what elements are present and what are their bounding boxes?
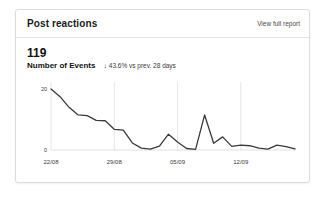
card-header: Post reactions View full report	[16, 10, 309, 38]
delta-text: 43.6% vs prev. 28 days	[109, 62, 176, 69]
chart-x-tick-label: 05/09	[170, 159, 186, 165]
events-line-chart: 020 22/0829/0805/0912/09	[27, 80, 299, 175]
metric-value: 119	[27, 46, 299, 60]
chart-x-tick-label: 22/08	[43, 159, 59, 165]
metric-label: Number of Events	[27, 61, 95, 70]
card-body: 119 Number of Events ↓ 43.6% vs prev. 28…	[16, 38, 309, 183]
metric-row: Number of Events ↓ 43.6% vs prev. 28 day…	[27, 61, 299, 70]
chart-y-axis-ticks: 020	[41, 86, 47, 153]
status-badge: ↓ 43.6% vs prev. 28 days	[103, 62, 175, 69]
chart-canvas: 020 22/0829/0805/0912/09	[27, 80, 299, 175]
chart-y-tick-label: 0	[44, 147, 47, 153]
page-title: Post reactions	[27, 18, 97, 29]
view-full-report-link[interactable]: View full report	[257, 20, 300, 27]
chart-x-tick-label: 29/08	[107, 159, 123, 165]
chart-line-series	[51, 89, 295, 149]
chart-x-tick-label: 12/09	[233, 159, 249, 165]
chart-x-axis-ticks: 22/0829/0805/0912/09	[43, 159, 248, 165]
post-reactions-card: Post reactions View full report 119 Numb…	[15, 9, 310, 183]
chart-y-tick-label: 20	[41, 86, 47, 92]
arrow-down-icon: ↓	[103, 62, 107, 69]
